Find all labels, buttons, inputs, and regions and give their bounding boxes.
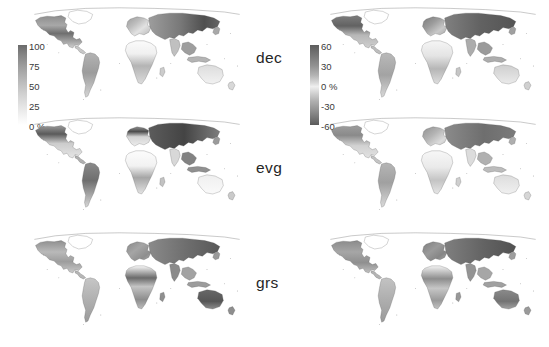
map-row-evg: evg: [0, 116, 549, 226]
map-panel-grs-change: [328, 231, 538, 339]
world-map-dec-change: [328, 6, 538, 114]
map-canvas: [32, 231, 242, 339]
map-canvas: [32, 6, 242, 114]
map-panel-dec-fraction: [32, 6, 242, 114]
map-canvas: [328, 116, 538, 224]
map-row-dec: 100 75 50 25 0 %: [0, 6, 549, 116]
map-figure: 100 75 50 25 0 %: [0, 0, 549, 347]
colorbar-gradient-sequential: [18, 45, 27, 125]
map-canvas: [32, 116, 242, 224]
map-canvas: [328, 6, 538, 114]
colorbar-gradient-diverging: [310, 45, 319, 125]
map-panel-grs-fraction: [32, 231, 242, 339]
map-panel-dec-change: [328, 6, 538, 114]
world-map-evg-fraction: [32, 116, 242, 224]
row-label-evg: evg: [256, 160, 320, 176]
map-row-grs: grs: [0, 231, 549, 341]
map-panel-evg-fraction: [32, 116, 242, 224]
world-map-grs-fraction: [32, 231, 242, 339]
row-label-grs: grs: [256, 275, 320, 291]
map-panel-evg-change: [328, 116, 538, 224]
world-map-dec-fraction: [32, 6, 242, 114]
world-map-grs-change: [328, 231, 538, 339]
map-canvas: [328, 231, 538, 339]
world-map-evg-change: [328, 116, 538, 224]
